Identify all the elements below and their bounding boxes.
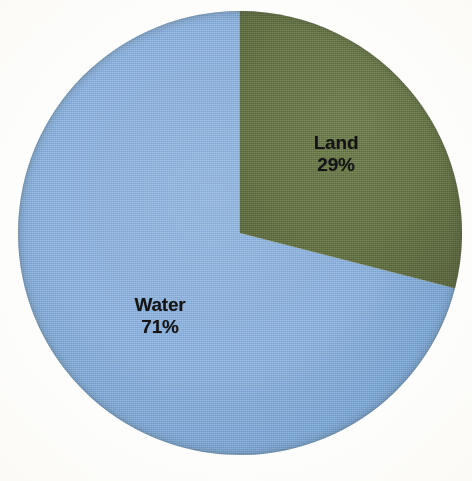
pie-chart-canvas xyxy=(0,0,472,481)
pie-label-land-name: Land xyxy=(288,132,384,154)
pie-label-land: Land 29% xyxy=(288,132,384,176)
pie-chart-svg xyxy=(0,0,472,481)
pie-label-water-value: 71% xyxy=(96,316,224,338)
pie-chart-figure: Land 29% Water 71% xyxy=(0,0,472,481)
pie-label-land-value: 29% xyxy=(288,154,384,176)
pie-label-water: Water 71% xyxy=(96,294,224,338)
pie-label-water-name: Water xyxy=(96,294,224,316)
